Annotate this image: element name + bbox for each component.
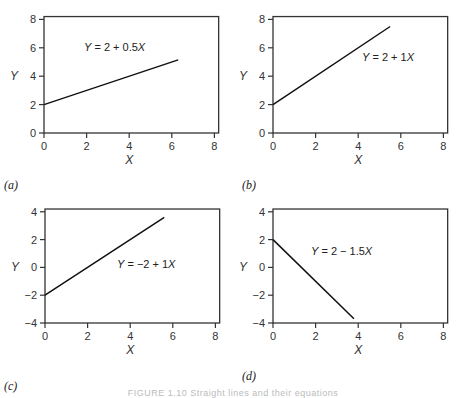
figure-caption: FIGURE 1.10 Straight lines and their equ… [0, 388, 466, 398]
y-tick-label: 0 [259, 261, 265, 273]
x-tick-label: 4 [355, 140, 361, 152]
x-axis-label: X [125, 343, 135, 357]
panel-label: (d) [242, 369, 256, 383]
equation-label: Y = −2 + 1X [117, 258, 176, 270]
x-axis-label: X [353, 153, 363, 167]
y-tick-label: 2 [259, 234, 265, 246]
y-tick-label: 0 [259, 127, 265, 139]
y-axis-label: Y [10, 69, 19, 83]
y-tick-label: 0 [31, 261, 37, 273]
y-tick-label: 4 [259, 206, 265, 218]
panel-label: (a) [4, 178, 18, 192]
x-tick-label: 4 [126, 140, 132, 152]
x-tick-label: 6 [170, 330, 176, 342]
y-tick-label: 4 [30, 70, 36, 82]
y-tick-label: 8 [259, 13, 265, 25]
x-tick-label: 2 [313, 140, 319, 152]
equation-label: Y = 2 + 1X [362, 51, 415, 63]
y-tick-label: 4 [259, 70, 265, 82]
y-tick-label: 6 [30, 42, 36, 54]
chart-panel-b: 0246802468XYY = 2 + 1X(b) [239, 13, 448, 192]
x-axis-label: X [353, 343, 363, 357]
x-tick-label: 0 [270, 140, 276, 152]
x-tick-label: 8 [440, 140, 446, 152]
y-tick-label: 8 [30, 13, 36, 25]
y-tick-label: 2 [259, 99, 265, 111]
x-tick-label: 2 [85, 330, 91, 342]
x-tick-label: 8 [211, 140, 217, 152]
panel-label: (b) [242, 178, 256, 192]
y-axis-label: Y [11, 260, 20, 274]
x-tick-label: 0 [42, 330, 48, 342]
x-tick-label: 4 [355, 330, 361, 342]
regression-line [273, 27, 390, 105]
chart-panel-c: 02468−4−2024XYY = −2 + 1X(c) [4, 206, 220, 393]
y-tick-label: −4 [24, 317, 37, 329]
x-tick-label: 2 [84, 140, 90, 152]
x-tick-label: 0 [41, 140, 47, 152]
x-tick-label: 6 [169, 140, 175, 152]
y-tick-label: 2 [31, 234, 37, 246]
x-tick-label: 2 [313, 330, 319, 342]
x-tick-label: 8 [440, 330, 446, 342]
y-tick-label: 4 [31, 206, 37, 218]
plot-frame [273, 17, 448, 133]
chart-panel-a: 0246802468XYY = 2 + 0.5X(a) [4, 13, 219, 192]
x-tick-label: 6 [398, 330, 404, 342]
equation-label: Y = 2 + 0.5X [84, 41, 146, 53]
y-axis-label: Y [239, 260, 248, 274]
x-tick-label: 4 [127, 330, 133, 342]
equation-label: Y = 2 − 1.5X [311, 245, 373, 257]
y-tick-label: −2 [24, 289, 37, 301]
chart-panel-d: 02468−4−2024XYY = 2 − 1.5X(d) [239, 206, 448, 383]
y-tick-label: −4 [252, 317, 265, 329]
x-tick-label: 8 [212, 330, 218, 342]
x-tick-label: 6 [398, 140, 404, 152]
regression-line [44, 60, 178, 105]
y-tick-label: 6 [259, 42, 265, 54]
y-tick-label: 0 [30, 127, 36, 139]
x-tick-label: 0 [270, 330, 276, 342]
y-axis-label: Y [239, 69, 248, 83]
y-tick-label: −2 [252, 289, 265, 301]
regression-line [45, 217, 164, 295]
y-tick-label: 2 [30, 99, 36, 111]
x-axis-label: X [124, 153, 134, 167]
